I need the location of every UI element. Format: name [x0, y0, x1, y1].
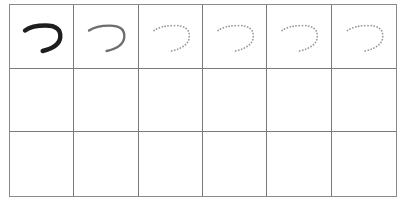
tsu-dotted-trace-icon	[203, 5, 266, 68]
practice-grid	[9, 4, 397, 197]
trace-cell[interactable]	[203, 5, 267, 69]
sample-cell	[74, 5, 138, 69]
blank-practice-cell[interactable]	[203, 132, 267, 196]
trace-cell[interactable]	[332, 5, 396, 69]
blank-practice-cell[interactable]	[74, 69, 138, 133]
tsu-sample-glyph-icon	[74, 5, 137, 68]
tsu-model-glyph-icon	[10, 5, 73, 68]
blank-practice-cell[interactable]	[10, 132, 74, 196]
blank-practice-cell[interactable]	[139, 132, 203, 196]
blank-practice-cell[interactable]	[267, 132, 331, 196]
blank-practice-cell[interactable]	[332, 69, 396, 133]
blank-practice-cell[interactable]	[332, 132, 396, 196]
trace-cell[interactable]	[267, 5, 331, 69]
tsu-dotted-trace-icon	[332, 5, 396, 68]
blank-practice-cell[interactable]	[267, 69, 331, 133]
blank-practice-cell[interactable]	[10, 69, 74, 133]
model-cell	[10, 5, 74, 69]
blank-practice-cell[interactable]	[74, 132, 138, 196]
tsu-dotted-trace-icon	[267, 5, 330, 68]
tsu-dotted-trace-icon	[139, 5, 202, 68]
blank-practice-cell[interactable]	[139, 69, 203, 133]
handwriting-practice-sheet	[0, 0, 399, 200]
trace-cell[interactable]	[139, 5, 203, 69]
blank-practice-cell[interactable]	[203, 69, 267, 133]
